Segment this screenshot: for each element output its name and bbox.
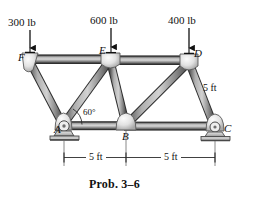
load-label-600lb: 600 lb	[90, 15, 118, 26]
joint-label-C: C	[224, 123, 231, 134]
load-label-400lb: 400 lb	[168, 15, 196, 26]
joint-label-F: F	[18, 52, 25, 63]
load-label-300lb: 300 lb	[8, 17, 36, 28]
dimension-label-right-5ft: 5 ft	[161, 152, 181, 162]
joint-label-E: E	[99, 45, 106, 56]
member-BC	[124, 122, 216, 131]
figure-caption: Prob. 3–6	[89, 178, 140, 190]
joint-label-A: A	[54, 124, 61, 135]
load-arrow-F	[25, 30, 35, 52]
member-BD	[126, 62, 189, 125]
load-arrow-D	[184, 28, 194, 53]
joint-label-D: D	[194, 48, 202, 59]
dimension-label-left-5ft: 5 ft	[86, 152, 106, 162]
joint-label-B: B	[122, 131, 129, 142]
truss-diagram-canvas	[0, 0, 255, 200]
truss-figure: 300 lb 600 lb 400 lb F E D A B C 60° 5 f…	[0, 0, 255, 200]
load-arrow-E	[106, 28, 116, 53]
member-FA	[29, 60, 63, 125]
load-arrows	[25, 28, 194, 53]
angle-label-60deg: 60°	[83, 108, 96, 117]
member-length-label-5ft: 5 ft	[203, 83, 217, 93]
